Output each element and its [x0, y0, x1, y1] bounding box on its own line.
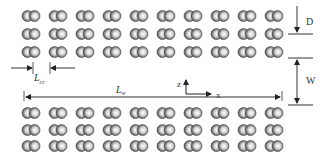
dimer-particle [49, 125, 67, 136]
dimer-particle [265, 108, 283, 119]
sphere [164, 47, 175, 58]
dimer-particle [265, 47, 283, 58]
dimer-particle [103, 29, 121, 40]
dimer-particle [103, 141, 121, 152]
dimer-particle [238, 141, 256, 152]
dimer-particle [76, 11, 94, 22]
dimer-particle [211, 108, 229, 119]
dimer-particle [22, 108, 40, 119]
sphere [191, 11, 202, 22]
sphere [83, 11, 94, 22]
sphere [245, 125, 256, 136]
sphere [191, 125, 202, 136]
axis-z-label: z [177, 79, 181, 89]
sphere [56, 47, 67, 58]
sphere [83, 125, 94, 136]
sphere [218, 141, 229, 152]
sphere [137, 29, 148, 40]
dimension-l-cc: Lcc [11, 62, 75, 85]
dimer-particle [49, 108, 67, 119]
top-particle-block [22, 11, 283, 58]
dimer-particle [265, 141, 283, 152]
dimension-w: W [288, 58, 316, 105]
dimer-particle [76, 125, 94, 136]
dimer-particle [49, 141, 67, 152]
sphere [218, 11, 229, 22]
sphere [110, 29, 121, 40]
sphere [29, 47, 40, 58]
sphere [29, 29, 40, 40]
sphere [245, 108, 256, 119]
sphere [272, 47, 283, 58]
sphere [137, 141, 148, 152]
sphere [137, 47, 148, 58]
dimer-particle [76, 108, 94, 119]
dimer-particle [184, 11, 202, 22]
dimer-particle [49, 29, 67, 40]
dimer-particle [22, 11, 40, 22]
dimer-particle [157, 47, 175, 58]
dimer-particle [76, 141, 94, 152]
sphere [272, 11, 283, 22]
dimension-l-long: Lw [24, 84, 282, 101]
dimer-particle [184, 141, 202, 152]
dimer-particle [103, 125, 121, 136]
sphere [29, 108, 40, 119]
dimer-particle [184, 125, 202, 136]
sphere [83, 108, 94, 119]
label-d: D [306, 16, 313, 27]
sphere [164, 125, 175, 136]
sphere [83, 47, 94, 58]
dimer-particle [238, 47, 256, 58]
dimer-particle [130, 29, 148, 40]
dimer-particle [211, 141, 229, 152]
dimer-particle [211, 125, 229, 136]
sphere [272, 125, 283, 136]
sphere [164, 29, 175, 40]
sphere [137, 108, 148, 119]
dimer-particle [184, 108, 202, 119]
sphere [110, 47, 121, 58]
sphere [191, 141, 202, 152]
sphere [110, 125, 121, 136]
sphere [272, 108, 283, 119]
dimer-particle [238, 11, 256, 22]
sphere [245, 29, 256, 40]
sphere [110, 11, 121, 22]
label-w: W [306, 75, 316, 86]
sphere [56, 141, 67, 152]
sphere [272, 29, 283, 40]
bottom-particle-block [22, 108, 283, 152]
dimer-particle [130, 108, 148, 119]
sphere [218, 125, 229, 136]
sphere [164, 11, 175, 22]
dimer-particle [238, 108, 256, 119]
sphere [272, 141, 283, 152]
sphere [191, 47, 202, 58]
sphere [83, 29, 94, 40]
sphere [29, 11, 40, 22]
sphere [137, 11, 148, 22]
sphere [218, 29, 229, 40]
dimer-particle [22, 141, 40, 152]
dimer-particle [49, 11, 67, 22]
sphere [191, 29, 202, 40]
sphere [29, 141, 40, 152]
dimer-particle [184, 47, 202, 58]
dimension-d: D [288, 6, 313, 34]
dimer-particle [238, 125, 256, 136]
dimer-particle [22, 29, 40, 40]
axis-x-label: x [216, 90, 221, 100]
dimer-particle [130, 125, 148, 136]
sphere [137, 125, 148, 136]
sphere [56, 125, 67, 136]
dimer-particle [130, 11, 148, 22]
dimer-particle [265, 125, 283, 136]
sphere [218, 47, 229, 58]
dimer-particle [211, 47, 229, 58]
dimer-particle [22, 125, 40, 136]
dimer-particle [76, 47, 94, 58]
dimer-particle [265, 11, 283, 22]
dimer-array-diagram: D W Lcc Lw z x [0, 0, 325, 160]
sphere [83, 141, 94, 152]
